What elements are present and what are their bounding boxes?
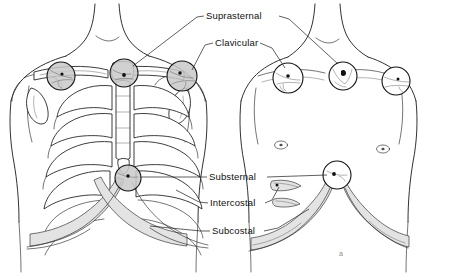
label-substernal: Substernal bbox=[209, 171, 256, 182]
site-substernal-right-panel bbox=[323, 161, 351, 189]
anatomical-figure: a Suprasternal Clavicular Substernal Int… bbox=[0, 0, 449, 279]
label-intercostal: Intercostal bbox=[210, 197, 255, 208]
site-clavicular-right-right-panel bbox=[382, 67, 410, 95]
site-suprasternal-right-panel bbox=[329, 62, 357, 90]
label-subcostal: Subcostal bbox=[212, 225, 255, 236]
site-clavicular-left bbox=[47, 62, 75, 90]
site-clavicular-right bbox=[167, 61, 197, 91]
site-substernal bbox=[115, 165, 141, 191]
site-suprasternal bbox=[110, 59, 138, 87]
label-suprasternal: Suprasternal bbox=[206, 10, 262, 21]
label-clavicular: Clavicular bbox=[215, 37, 258, 48]
figure-mark: a bbox=[339, 250, 343, 257]
site-clavicular-left-right-panel bbox=[273, 63, 303, 93]
